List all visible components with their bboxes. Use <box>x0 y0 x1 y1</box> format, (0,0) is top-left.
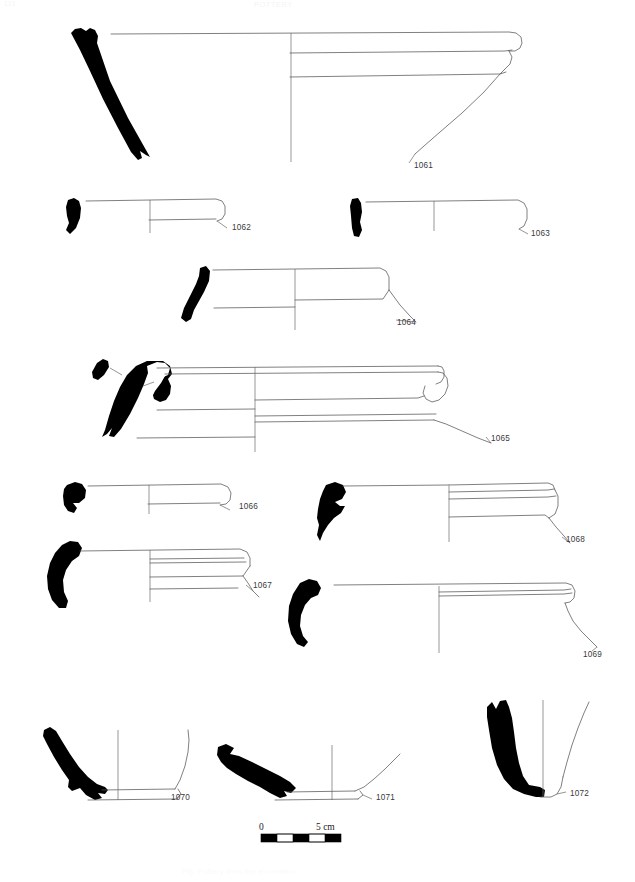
scale-segment-5 <box>325 834 341 842</box>
vessel-lower-b-1065 <box>255 414 436 416</box>
vessel-rim-top-1068 <box>449 483 555 490</box>
leader-line-1066 <box>220 505 230 510</box>
vessel-base-1065 <box>137 437 255 438</box>
sherd-silhouette-1072 <box>487 700 545 797</box>
sherd-fragment-1065 <box>92 359 109 380</box>
vessel-lower-c-1065 <box>255 420 434 422</box>
figure-number-1072: 1072 <box>570 789 589 798</box>
fragment-leader-1065 <box>110 368 122 375</box>
vessel-outline-1065 <box>165 372 438 374</box>
scale-bar-segments <box>261 834 341 842</box>
scale-end-label: 5 cm <box>316 822 335 832</box>
vessel-groove-upper-1061 <box>290 50 512 53</box>
figure-number-1065: 1065 <box>491 434 510 443</box>
page-header-left: 111 <box>4 0 16 7</box>
figure-number-1070: 1070 <box>171 793 190 802</box>
plate-drawing-canvas: 1061 1062 1063 1064 <box>0 0 635 882</box>
vessel-groove-a-1069 <box>439 589 571 592</box>
figure-1065: 1065 <box>92 359 510 452</box>
figure-number-1062: 1062 <box>232 223 251 232</box>
sherd-silhouette-1071 <box>217 744 296 798</box>
scale-segment-3 <box>293 834 309 842</box>
sherd-silhouette-1064 <box>181 266 210 322</box>
scale-bar: 0 5 cm <box>259 822 341 842</box>
figure-number-1061: 1061 <box>414 161 433 170</box>
vessel-base-line-1071 <box>275 799 358 800</box>
vessel-mid-1065 <box>255 396 424 400</box>
vessel-wall-1071 <box>355 754 400 791</box>
sherd-silhouette-1062 <box>66 198 81 234</box>
figure-number-1063: 1063 <box>531 229 550 238</box>
vessel-outline-1067 <box>80 549 250 566</box>
figure-number-1071: 1071 <box>376 793 395 802</box>
sherd-silhouette-1063 <box>350 198 362 237</box>
leader-line-1062 <box>217 221 227 228</box>
pottery-plate: 111 POTTERY Fig. Pottery from the excava… <box>0 0 635 882</box>
vessel-body-contour-1061 <box>415 51 512 154</box>
vessel-groove-c-1067 <box>150 566 250 577</box>
vessel-wall-1065 <box>434 420 491 443</box>
vessel-lower-1064 <box>214 307 295 308</box>
scale-segment-1 <box>261 834 277 842</box>
vessel-rim-top-1065 <box>157 366 438 368</box>
sherd-silhouette-1069 <box>288 579 321 647</box>
vessel-outline-1064 <box>213 268 389 290</box>
vessel-base-1071 <box>287 791 355 792</box>
figure-number-1067: 1067 <box>253 581 272 590</box>
leader-line-1063 <box>519 229 528 234</box>
figure-1071: 1071 <box>217 744 400 802</box>
vessel-rim-outer-1065 <box>436 366 444 384</box>
sherd-silhouette-1068 <box>317 482 346 541</box>
vessel-groove-a-1067 <box>150 558 244 559</box>
figure-1067: 1067 <box>47 541 272 608</box>
figure-1062: 1062 <box>66 198 251 234</box>
vessel-lower-1067 <box>150 588 238 589</box>
vessel-groove-b-1067 <box>150 562 246 563</box>
vessel-carination-1064 <box>295 290 389 300</box>
vessel-lower-1068 <box>449 515 549 518</box>
vessel-wall-1070 <box>175 730 189 789</box>
leader-line-1071 <box>363 795 372 799</box>
vessel-inner-1066 <box>148 503 220 504</box>
sherd-silhouette-1061 <box>71 28 150 160</box>
figure-1068: 1068 <box>317 482 585 544</box>
vessel-outline-1069 <box>334 583 575 603</box>
vessel-outline-1066 <box>88 484 231 505</box>
figure-caption: Fig. Pottery from the excavation <box>182 868 297 875</box>
vessel-outline-1063 <box>366 200 527 229</box>
vessel-groove-b-1068 <box>449 496 556 499</box>
vessel-foot-1071 <box>358 791 363 799</box>
vessel-lower-a-1065 <box>157 409 255 410</box>
figure-1063: 1063 <box>350 198 550 238</box>
scale-start-label: 0 <box>259 822 264 832</box>
figure-1066: 1066 <box>63 482 258 514</box>
sherd-silhouette-1067 <box>47 541 82 608</box>
figure-number-1064: 1064 <box>397 318 416 327</box>
figure-number-1066: 1066 <box>239 502 258 511</box>
vessel-groove-lower-1061 <box>290 72 506 77</box>
figure-1069: 1069 <box>288 579 602 659</box>
scale-segment-2 <box>277 834 293 842</box>
sherd-silhouette-1070 <box>43 727 108 800</box>
figure-number-1069: 1069 <box>583 650 602 659</box>
vessel-rim-outer-1068 <box>549 490 558 518</box>
vessel-wall-1069 <box>565 603 597 647</box>
vessel-outline-1068 <box>343 485 449 486</box>
vessel-outline-1061 <box>111 32 522 51</box>
vessel-inner-1062 <box>149 219 216 220</box>
scale-segment-4 <box>309 834 325 842</box>
figure-1064: 1064 <box>181 266 416 330</box>
figure-1072: 1072 <box>487 700 589 798</box>
vessel-wall-1072 <box>563 702 589 777</box>
figure-1061: 1061 <box>71 28 522 170</box>
vessel-outline-1062 <box>86 199 225 221</box>
page-header-center: POTTERY <box>254 0 293 9</box>
vessel-groove-a-1068 <box>449 489 554 492</box>
figure-1070: 1070 <box>43 727 190 802</box>
vessel-base-line-1070 <box>88 799 177 800</box>
figure-number-1068: 1068 <box>566 535 585 544</box>
sherd-silhouette-1066 <box>63 482 86 513</box>
vessel-base-1070 <box>102 789 175 790</box>
vessel-groove-b-1069 <box>439 593 572 596</box>
